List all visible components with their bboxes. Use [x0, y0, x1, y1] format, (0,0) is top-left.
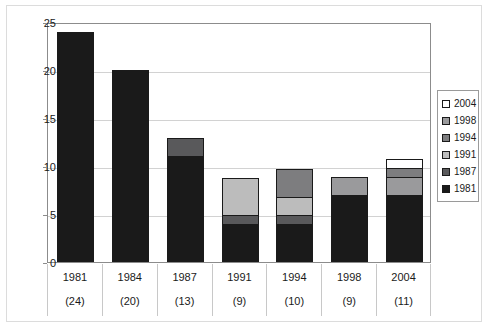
legend-item-1981[interactable]: 1981 — [442, 180, 475, 197]
x-axis-label-1991: 1991(9) — [212, 264, 267, 316]
x-axis-label-1987: 1987(13) — [157, 264, 212, 316]
legend-item-1987[interactable]: 1987 — [442, 163, 475, 180]
x-axis-count: (9) — [213, 295, 267, 307]
bar-segment-1981 — [112, 70, 149, 262]
y-axis-tick-mark — [43, 263, 47, 264]
x-axis-year: 1994 — [267, 271, 321, 283]
legend-swatch-icon — [442, 151, 450, 159]
bar-segment-1981 — [57, 32, 94, 262]
legend-item-1991[interactable]: 1991 — [442, 146, 475, 163]
y-axis-tick-mark — [43, 119, 47, 120]
bar-segment-1998 — [331, 177, 368, 196]
bar-1991 — [222, 178, 259, 262]
bar-segment-1991 — [222, 178, 259, 216]
x-axis-label-1984: 1984(20) — [102, 264, 157, 316]
legend-label: 1981 — [454, 183, 476, 194]
bar-segment-1987 — [167, 138, 204, 157]
y-axis-tick-label: 20 — [22, 65, 56, 77]
x-axis-count: (24) — [48, 295, 102, 307]
x-axis-count: (20) — [103, 295, 157, 307]
legend-swatch-icon — [442, 100, 450, 108]
x-axis-label-2004: 2004(11) — [376, 264, 431, 316]
y-axis-tick-mark — [43, 23, 47, 24]
bar-segment-1998 — [386, 177, 423, 196]
x-axis-count: (13) — [158, 295, 212, 307]
legend-swatch-icon — [442, 117, 450, 125]
bar-segment-1981 — [386, 195, 423, 262]
bar-2004 — [386, 159, 423, 262]
bar-segment-1991 — [276, 197, 313, 216]
gridline — [48, 120, 430, 121]
y-axis-tick-label: 10 — [22, 161, 56, 173]
y-axis-tick-label: 15 — [22, 113, 56, 125]
legend-item-1998[interactable]: 1998 — [442, 112, 475, 129]
bar-1994 — [276, 169, 313, 262]
bar-1984 — [112, 70, 149, 262]
bar-segment-1981 — [222, 224, 259, 262]
bar-1981 — [57, 32, 94, 262]
legend-item-2004[interactable]: 2004 — [442, 95, 475, 112]
x-axis-year: 1984 — [103, 271, 157, 283]
legend-swatch-icon — [442, 134, 450, 142]
y-axis-tick-mark — [43, 215, 47, 216]
y-axis-tick-mark — [43, 167, 47, 168]
chart-legend: 200419981994199119871981 — [437, 90, 479, 202]
x-axis-count: (9) — [322, 295, 376, 307]
x-axis-label-1994: 1994(10) — [266, 264, 321, 316]
legend-label: 1987 — [454, 166, 476, 177]
legend-label: 1998 — [454, 115, 476, 126]
y-axis-tick-label: 25 — [22, 17, 56, 29]
x-axis-year: 1998 — [322, 271, 376, 283]
x-axis-count: (10) — [267, 295, 321, 307]
y-axis-tick-label: 5 — [22, 209, 56, 221]
y-axis-tick-mark — [43, 71, 47, 72]
bar-segment-1981 — [167, 156, 204, 262]
legend-swatch-icon — [442, 185, 450, 193]
x-axis-label-1981: 1981(24) — [47, 264, 102, 316]
legend-label: 2004 — [454, 98, 476, 109]
x-axis-count: (11) — [377, 295, 430, 307]
chart-figure: 1981(24)1984(20)1987(13)1991(9)1994(10)1… — [6, 5, 482, 322]
legend-item-1994[interactable]: 1994 — [442, 129, 475, 146]
x-axis-year: 2004 — [377, 271, 430, 283]
x-axis-year: 1991 — [213, 271, 267, 283]
x-axis-label-1998: 1998(9) — [321, 264, 376, 316]
bar-segment-1994 — [276, 169, 313, 198]
bar-segment-1981 — [331, 195, 368, 262]
x-axis-year: 1987 — [158, 271, 212, 283]
x-axis-labels: 1981(24)1984(20)1987(13)1991(9)1994(10)1… — [47, 264, 431, 316]
x-axis-year: 1981 — [48, 271, 102, 283]
legend-label: 1991 — [454, 149, 476, 160]
legend-swatch-icon — [442, 168, 450, 176]
plot-area — [47, 23, 431, 263]
bar-1987 — [167, 138, 204, 262]
gridline — [48, 168, 430, 169]
y-axis-tick-label: 0 — [22, 257, 56, 269]
legend-label: 1994 — [454, 132, 476, 143]
bar-segment-1981 — [276, 224, 313, 262]
bar-1998 — [331, 177, 368, 262]
gridline — [48, 72, 430, 73]
